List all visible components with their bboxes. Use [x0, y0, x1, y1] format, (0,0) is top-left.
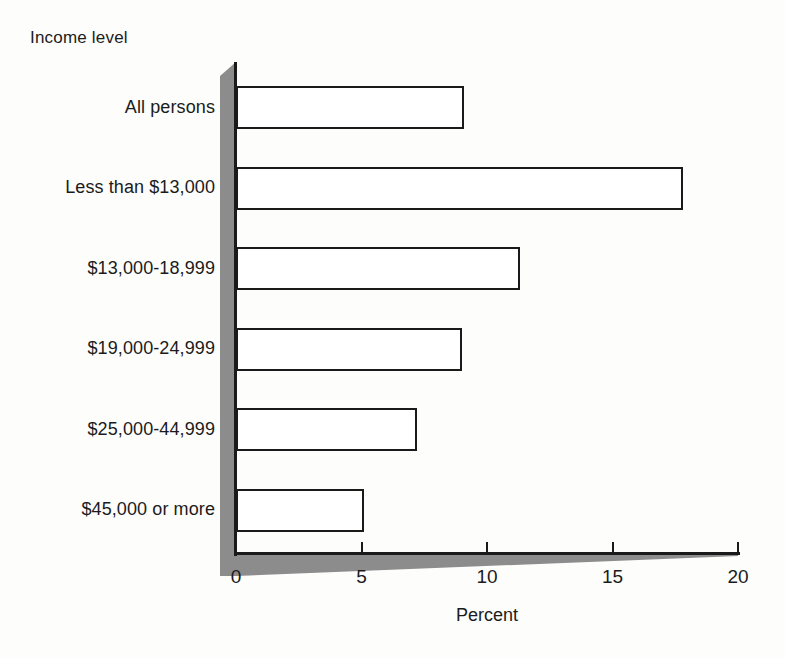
- chart-page: Income level 05101520 All personsLess th…: [0, 0, 785, 658]
- bar: [236, 247, 520, 290]
- x-axis-tick: [361, 542, 363, 553]
- plot-area: 05101520 All personsLess than $13,000$13…: [0, 0, 785, 658]
- bar: [236, 489, 364, 532]
- category-label: Less than $13,000: [65, 177, 215, 198]
- x-axis-tick-label: 15: [602, 566, 623, 588]
- bar: [236, 86, 464, 129]
- x-axis-tick-label: 0: [231, 566, 242, 588]
- category-label: $19,000-24,999: [87, 338, 215, 359]
- category-label: $45,000 or more: [81, 499, 215, 520]
- bar: [236, 167, 683, 210]
- bar: [236, 408, 417, 451]
- x-axis-title: Percent: [456, 605, 518, 626]
- x-axis-tick-label: 5: [356, 566, 367, 588]
- y-axis-line: [234, 62, 237, 556]
- category-label: All persons: [125, 97, 215, 118]
- x-axis-tick: [612, 542, 614, 553]
- bar: [236, 328, 462, 371]
- x-axis-tick: [486, 542, 488, 553]
- category-label: $25,000-44,999: [87, 419, 215, 440]
- x-axis-tick: [235, 542, 237, 553]
- x-axis-tick: [737, 542, 739, 553]
- category-label: $13,000-18,999: [87, 258, 215, 279]
- x-axis-tick-label: 10: [476, 566, 497, 588]
- x-axis-tick-label: 20: [727, 566, 748, 588]
